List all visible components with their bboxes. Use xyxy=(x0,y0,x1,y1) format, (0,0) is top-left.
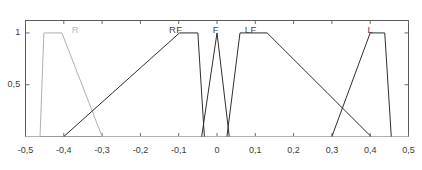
x-axis-tick-label: 0,1 xyxy=(249,145,262,155)
series-label-l: L xyxy=(367,24,373,35)
membership-curve-rf xyxy=(64,33,205,137)
fuzzy-membership-chart: 0,51-0,5-0,4-0,3-0,2-0,100,10,20,30,40,5… xyxy=(0,0,422,170)
x-axis-tick-label: -0,4 xyxy=(56,145,72,155)
x-axis-tick-label: 0 xyxy=(214,145,219,155)
y-axis-tick-label: 0,5 xyxy=(7,79,20,89)
series-label-f: F xyxy=(213,24,219,35)
x-axis-tick-label: 0,2 xyxy=(287,145,300,155)
series-label-rf: RF xyxy=(169,24,182,35)
x-axis-tick-label: -0,3 xyxy=(94,145,110,155)
x-axis-tick-label: 0,3 xyxy=(326,145,339,155)
series-label-r: R xyxy=(72,24,79,35)
x-axis-tick-label: -0,2 xyxy=(133,145,149,155)
membership-curve-lf xyxy=(227,33,371,137)
x-axis-tick-label: 0,5 xyxy=(402,145,415,155)
x-axis-tick-label: -0,5 xyxy=(18,145,34,155)
membership-curve-l xyxy=(332,33,391,137)
membership-curve-f xyxy=(202,33,230,137)
y-axis-tick-label: 1 xyxy=(15,27,20,37)
series-label-lf: LF xyxy=(245,24,257,35)
x-axis-tick-label: 0,4 xyxy=(364,145,377,155)
x-axis-tick-label: -0,1 xyxy=(171,145,187,155)
